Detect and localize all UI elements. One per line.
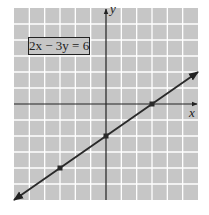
equation-text: 2x − 3y = 6 (29, 38, 89, 53)
data-point-marker (104, 134, 109, 139)
x-axis-label: x (189, 105, 195, 121)
coordinate-plane (0, 0, 209, 215)
y-axis-label: y (110, 1, 116, 17)
data-point-marker (150, 102, 155, 107)
data-point-marker (58, 166, 63, 171)
equation-label: 2x − 3y = 6 (28, 37, 90, 55)
